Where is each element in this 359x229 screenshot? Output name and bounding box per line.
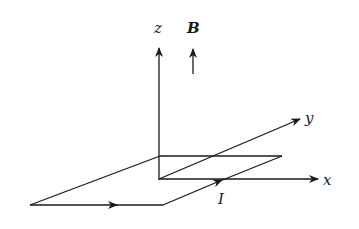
x-axis-label: x — [323, 171, 332, 189]
field-label: B — [186, 19, 200, 37]
magnetic-loop-diagram: z B x y I — [0, 0, 359, 229]
y-axis-label: y — [304, 109, 314, 127]
current-loop: I — [30, 156, 282, 208]
magnetic-field-arrow: B — [186, 19, 200, 74]
current-label: I — [217, 190, 225, 208]
x-axis: x — [159, 171, 332, 189]
z-axis-label: z — [153, 19, 162, 37]
y-axis: y — [159, 109, 314, 179]
